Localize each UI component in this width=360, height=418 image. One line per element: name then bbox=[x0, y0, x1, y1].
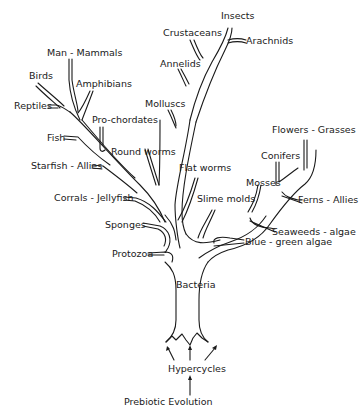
label-sponges: Sponges bbox=[105, 220, 146, 230]
label-hypercycles: Hypercycles bbox=[168, 364, 226, 374]
label-seaweeds-algae: Seaweeds - algae bbox=[272, 227, 356, 237]
label-reptiles: Reptiles bbox=[14, 101, 52, 111]
trunk-left-edge bbox=[165, 262, 176, 342]
label-blue-green-algae: Blue - green algae bbox=[245, 237, 332, 247]
label-fish: Fish bbox=[47, 133, 65, 143]
label-prebiotic-evolution: Prebiotic Evolution bbox=[124, 397, 213, 407]
label-protozoa: Protozoa bbox=[112, 249, 153, 259]
label-ferns-allies: Ferns - Allies bbox=[298, 195, 358, 205]
label-crustaceans: Crustaceans bbox=[163, 28, 222, 38]
label-amphibians: Amphibians bbox=[76, 79, 132, 89]
label-pro-chordates: Pro-chordates bbox=[92, 115, 158, 125]
label-conifers: Conifers bbox=[261, 151, 300, 161]
label-flat-worms: Flat worms bbox=[179, 163, 231, 173]
label-corals-jellyfish: Corrals - Jellyfish bbox=[54, 193, 133, 203]
label-man-mammals: Man - Mammals bbox=[47, 48, 122, 58]
label-arachnids: Arachnids bbox=[246, 36, 293, 46]
label-round-worms: Round worms bbox=[111, 147, 176, 157]
label-slime-molds: Slime molds bbox=[197, 194, 255, 204]
label-mosses: Mosses bbox=[246, 178, 281, 188]
label-annelids: Annelids bbox=[160, 59, 201, 69]
label-bacteria: Bacteria bbox=[176, 280, 216, 290]
label-molluscs: Molluscs bbox=[145, 99, 185, 109]
label-flowers-grasses: Flowers - Grasses bbox=[272, 125, 356, 135]
label-starfish-allies: Starfish - Allies bbox=[31, 161, 102, 171]
label-insects: Insects bbox=[221, 11, 255, 21]
trunk-right-edge bbox=[199, 262, 208, 342]
label-birds: Birds bbox=[29, 71, 53, 81]
